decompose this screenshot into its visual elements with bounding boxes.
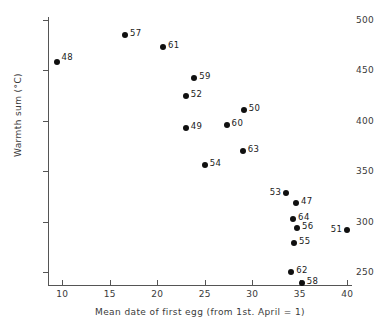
data-point-label-62: 62 — [296, 266, 308, 275]
data-point-label-52: 52 — [191, 90, 203, 99]
data-point-label-63: 63 — [248, 145, 260, 154]
x-tick-label-15: 15 — [97, 290, 123, 299]
x-axis-title: Mean date of first egg (from 1st. April … — [48, 307, 352, 317]
data-point-marker-50 — [241, 107, 247, 113]
x-tick-label-30: 30 — [239, 290, 265, 299]
data-point-marker-51 — [344, 227, 350, 233]
data-point-label-53: 53 — [270, 188, 282, 197]
x-tick-40 — [347, 280, 348, 286]
data-point-marker-48 — [54, 59, 60, 65]
x-tick-25 — [205, 280, 206, 286]
data-point-marker-60 — [224, 122, 230, 128]
data-point-label-56: 56 — [302, 222, 314, 231]
y-tick-300 — [43, 222, 49, 223]
data-point-marker-47 — [293, 200, 299, 206]
y-tick-label-500: 500 — [340, 16, 374, 25]
data-point-marker-59 — [191, 75, 197, 81]
y-tick-label-300: 300 — [340, 218, 374, 227]
data-point-label-49: 49 — [191, 122, 203, 131]
data-point-marker-57 — [122, 32, 128, 38]
x-tick-15 — [110, 280, 111, 286]
data-point-label-57: 57 — [130, 29, 142, 38]
y-tick-500 — [43, 20, 49, 21]
y-axis-title: Warmth sum (°C) — [13, 55, 23, 175]
y-tick-label-450: 450 — [340, 66, 374, 75]
data-point-label-61: 61 — [168, 41, 180, 50]
data-point-label-54: 54 — [210, 159, 222, 168]
x-tick-label-35: 35 — [287, 290, 313, 299]
x-tick-30 — [252, 280, 253, 286]
data-point-marker-58 — [299, 280, 305, 286]
data-point-marker-52 — [183, 93, 189, 99]
x-tick-label-25: 25 — [192, 290, 218, 299]
data-point-marker-55 — [291, 240, 297, 246]
y-tick-350 — [43, 171, 49, 172]
y-tick-400 — [43, 121, 49, 122]
y-tick-450 — [43, 70, 49, 71]
data-point-label-59: 59 — [199, 72, 211, 81]
data-point-marker-53 — [283, 190, 289, 196]
scatter-plot: 250300350400450500 10152025303540 Warmth… — [0, 0, 374, 331]
data-point-label-51: 51 — [331, 225, 343, 234]
data-point-marker-56 — [294, 225, 300, 231]
y-tick-label-400: 400 — [340, 117, 374, 126]
data-point-label-48: 48 — [62, 53, 74, 62]
x-tick-10 — [62, 280, 63, 286]
y-tick-label-250: 250 — [340, 268, 374, 277]
data-point-marker-49 — [183, 125, 189, 131]
data-point-label-60: 60 — [232, 119, 244, 128]
data-point-marker-62 — [288, 269, 294, 275]
y-axis-line — [48, 17, 49, 286]
y-tick-label-350: 350 — [340, 167, 374, 176]
data-point-label-58: 58 — [307, 277, 319, 286]
x-tick-label-20: 20 — [144, 290, 170, 299]
data-point-label-47: 47 — [301, 197, 313, 206]
y-tick-250 — [43, 272, 49, 273]
data-point-label-55: 55 — [299, 237, 311, 246]
x-tick-label-10: 10 — [49, 290, 75, 299]
data-point-marker-63 — [240, 148, 246, 154]
x-tick-label-40: 40 — [334, 290, 360, 299]
data-point-label-50: 50 — [249, 104, 261, 113]
data-point-marker-54 — [202, 162, 208, 168]
data-point-marker-64 — [290, 216, 296, 222]
x-tick-20 — [157, 280, 158, 286]
data-point-marker-61 — [160, 44, 166, 50]
